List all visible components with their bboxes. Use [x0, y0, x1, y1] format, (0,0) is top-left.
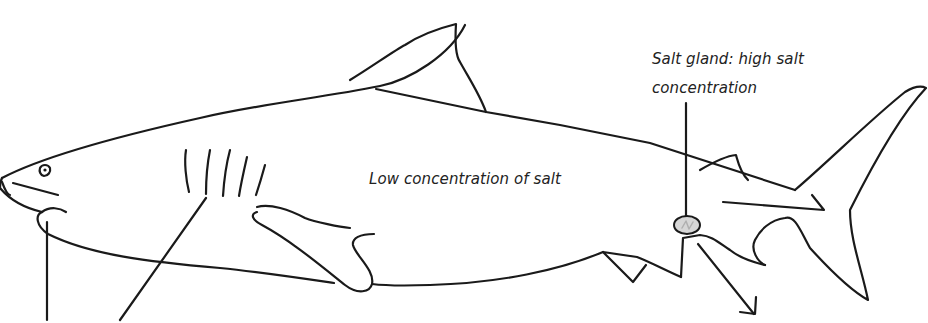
salt-excretion-arrow-icon: [698, 244, 756, 314]
shark-back-outline: [2, 25, 465, 178]
tail-inner-line: [723, 195, 824, 210]
gill-slits: [185, 150, 265, 196]
salt-gland-label-line1: Salt gland: high salt: [652, 50, 804, 68]
mouth-line: [13, 183, 58, 195]
jaw-curve: [42, 208, 66, 212]
shark-outline-drawing: [0, 0, 928, 323]
salt-gland-label-line2: concentration: [652, 79, 757, 97]
pectoral-fin-top: [257, 206, 350, 228]
eye-icon: [40, 165, 51, 176]
caudal-fin: [753, 87, 926, 300]
lower-tail-body: [681, 235, 765, 277]
anal-fin: [603, 252, 681, 282]
body-salt-label: Low concentration of salt: [369, 170, 561, 188]
belly-outline: [372, 252, 603, 285]
shark-diagram: Salt gland: high salt concentration Low …: [0, 0, 928, 323]
salt-gland-icon: [674, 216, 700, 234]
lower-jaw-body: [0, 188, 334, 283]
